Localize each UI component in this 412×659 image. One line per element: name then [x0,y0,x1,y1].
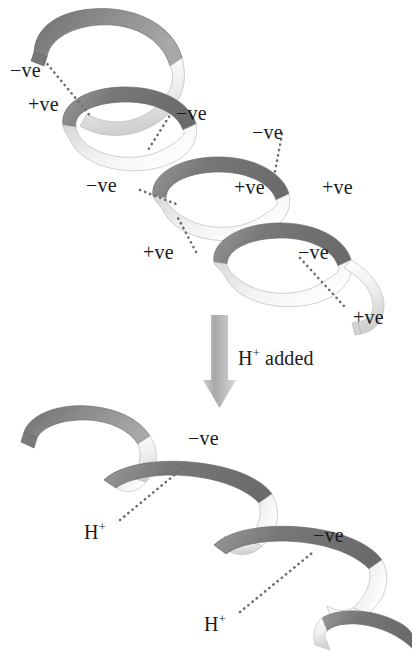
alpha-helix-ribbon [31,9,384,335]
charge-label-positive-2: +ve [234,177,265,197]
helix-protonation-figure: −ve +ve −ve −ve −ve +ve +ve +ve −ve +ve … [0,0,412,659]
leader-h2 [240,553,312,612]
proton-label-1-h: H [84,521,99,543]
coil-charge-label-negative-2: −ve [313,525,344,545]
helix-turn-4-front [214,260,352,307]
charge-label-negative-5: −ve [298,242,329,262]
proton-label-2-h: H [204,613,219,635]
charge-label-positive-4: +ve [143,242,174,262]
coil-seg-3-front [353,560,387,614]
h-added-arrow [203,315,236,408]
arrow-shape [203,315,236,408]
helix-turn-1-back [34,9,182,66]
h-added-caption-charge: + [253,346,260,360]
charge-label-negative-4: −ve [86,175,117,195]
proton-label-2-charge: + [219,612,226,626]
charge-label-negative-2: −ve [176,103,207,123]
coil-seg-4-tail [322,611,412,648]
h-added-caption: H+ added [238,348,314,368]
coil-charge-label-negative-1: −ve [188,428,219,448]
charge-label-positive-1: +ve [28,94,59,114]
proton-label-2: H+ [204,614,226,634]
charge-label-negative-1: −ve [10,60,41,80]
proton-label-1: H+ [84,522,106,542]
charge-label-positive-3: +ve [322,177,353,197]
helix-turn-3-back [153,157,289,200]
charge-label-positive-5: +ve [353,307,384,327]
h-added-caption-rest: added [260,347,314,369]
coil-seg-1-back [24,406,150,444]
charge-label-negative-3: −ve [252,122,283,142]
diagram-artwork [0,0,412,659]
proton-label-1-charge: + [99,520,106,534]
h-added-caption-h: H [238,347,253,369]
